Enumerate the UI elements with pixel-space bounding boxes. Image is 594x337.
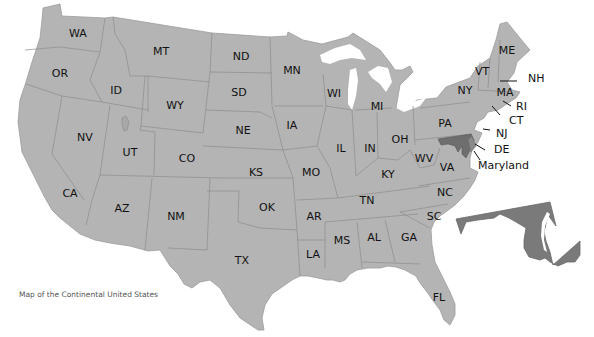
state-label-wi: WI (327, 88, 341, 99)
state-label-mn: MN (283, 65, 301, 76)
state-label-me: ME (499, 45, 515, 56)
state-label-az: AZ (114, 203, 129, 214)
state-label-il: IL (336, 143, 345, 154)
state-label-al: AL (367, 232, 381, 243)
state-label-co: CO (179, 153, 195, 164)
state-label-sd: SD (231, 87, 246, 98)
state-label-ne: NE (235, 125, 250, 136)
state-label-mi: MI (371, 101, 384, 112)
callout-label-de: DE (494, 144, 509, 155)
state-label-ny: NY (458, 85, 473, 96)
state-label-in: IN (364, 143, 375, 154)
maryland-inset (456, 202, 580, 266)
state-label-pa: PA (438, 118, 451, 129)
state-label-mt: MT (153, 46, 169, 57)
state-label-tx: TX (235, 255, 249, 266)
state-label-nv: NV (77, 132, 93, 143)
state-label-id: ID (110, 85, 122, 96)
callout-label-nh: NH (528, 73, 545, 84)
state-label-ms: MS (334, 235, 350, 246)
state-label-wa: WA (69, 28, 87, 39)
callout-label-ct: CT (509, 115, 523, 126)
state-label-wy: WY (166, 100, 184, 111)
state-label-ky: KY (381, 169, 395, 180)
state-label-sc: SC (427, 211, 442, 222)
state-label-nm: NM (167, 211, 185, 222)
state-label-tn: TN (360, 195, 375, 206)
state-label-va: VA (440, 162, 454, 173)
state-label-ma: MA (496, 87, 513, 98)
state-label-ks: KS (249, 167, 263, 178)
us-map: WAORMTIDWYNDSDNEMNIAWIMIILINOHPANYVTMEMA… (0, 0, 594, 337)
state-label-ok: OK (259, 202, 275, 213)
callout-label-nj: NJ (496, 128, 507, 139)
state-label-or: OR (52, 68, 68, 79)
state-label-ca: CA (62, 188, 77, 199)
state-label-ut: UT (123, 147, 138, 158)
callout-label-ri: RI (516, 101, 527, 112)
state-label-ar: AR (306, 211, 321, 222)
state-label-ga: GA (401, 232, 417, 243)
state-label-la: LA (306, 249, 320, 260)
state-label-nd: ND (233, 51, 250, 62)
state-label-vt: VT (475, 66, 489, 77)
state-label-ia: IA (287, 120, 298, 131)
state-label-wv: WV (415, 153, 433, 164)
state-label-oh: OH (392, 134, 409, 145)
state-label-fl: FL (433, 292, 445, 303)
state-label-mo: MO (302, 167, 320, 178)
callout-label-maryland: Maryland (478, 160, 529, 171)
map-caption: Map of the Continental United States (19, 290, 158, 299)
state-label-nc: NC (437, 187, 453, 198)
